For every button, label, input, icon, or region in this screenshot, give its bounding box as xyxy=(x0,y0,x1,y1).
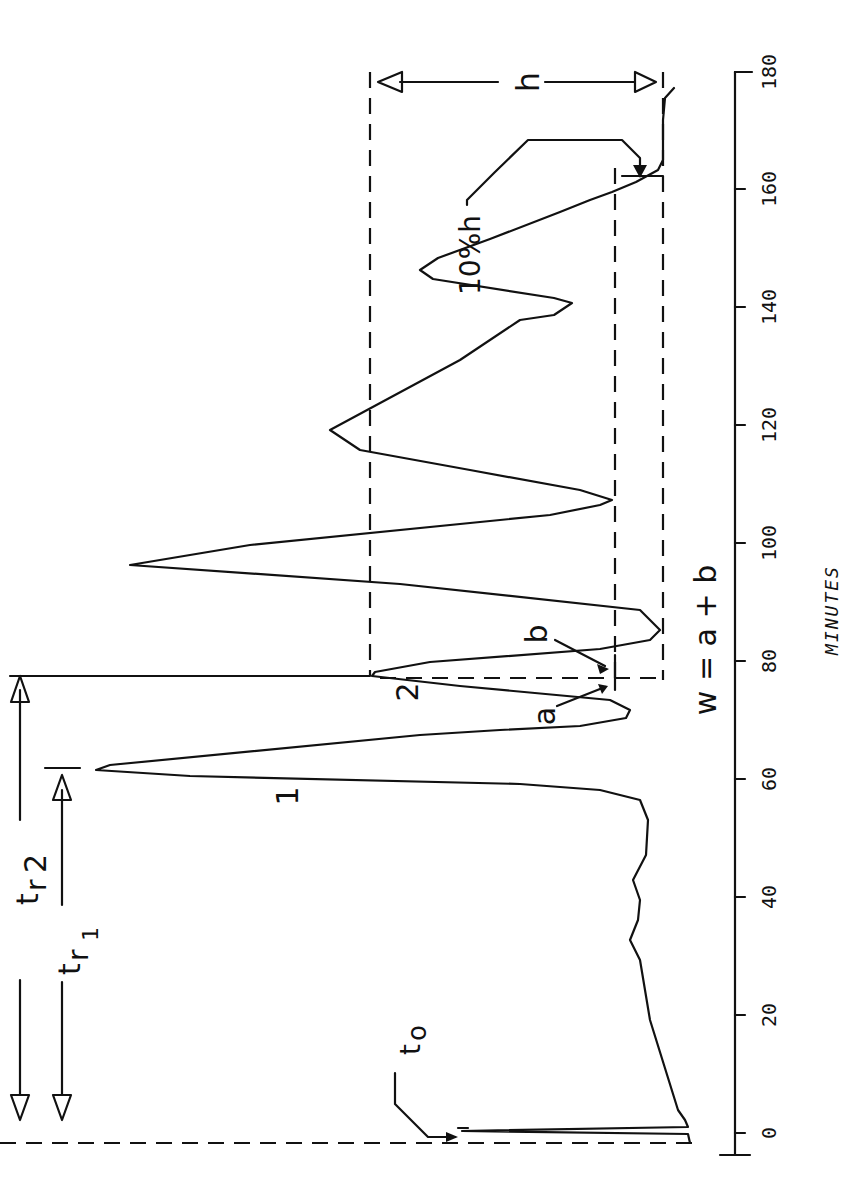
tick-label-40: 40 xyxy=(757,885,781,909)
svg-text:r: r xyxy=(62,949,95,961)
tr1-label: t r 1 xyxy=(52,927,103,975)
svg-text:2: 2 xyxy=(18,854,53,873)
peak-1-label: 1 xyxy=(270,786,305,805)
tick-label-0: 0 xyxy=(757,1127,781,1139)
tick-label-60: 60 xyxy=(757,767,781,791)
axis-ticks xyxy=(735,72,745,1133)
tick-label-80: 80 xyxy=(757,649,781,673)
arrow-head-right-icon xyxy=(446,1132,458,1142)
h-arrow: h xyxy=(378,72,656,92)
svg-text:1: 1 xyxy=(78,927,103,941)
tick-label-140: 140 xyxy=(757,289,781,325)
svg-text:o: o xyxy=(402,1025,432,1041)
svg-text:t: t xyxy=(10,893,45,905)
tick-label-180: 180 xyxy=(757,54,781,90)
tr1-arrow xyxy=(53,775,71,1120)
b-label: b xyxy=(519,624,554,643)
ten-percent-h-label: 10%h xyxy=(454,215,487,295)
b-leader-line xyxy=(555,640,605,666)
tick-label-20: 20 xyxy=(757,1003,781,1027)
arrow-head-down-icon xyxy=(53,1095,71,1120)
time-axis: 0 20 40 60 80 100 120 140 160 180 MINUTE… xyxy=(720,54,842,1155)
arrow-head-down-icon xyxy=(11,1095,29,1120)
svg-text:r: r xyxy=(20,879,53,891)
ten-percent-h-annotation: 10%h xyxy=(454,140,663,295)
chromatogram-trace xyxy=(96,88,690,1143)
svg-text:t: t xyxy=(394,1044,427,1055)
arrow-head-left-icon xyxy=(378,72,402,92)
tick-label-120: 120 xyxy=(757,407,781,443)
a-label: a xyxy=(527,707,562,725)
tr2-label: t r 2 xyxy=(10,854,53,905)
svg-text:t: t xyxy=(52,963,87,975)
tick-label-100: 100 xyxy=(757,525,781,561)
arrow-head-right-icon xyxy=(635,72,656,92)
tick-label-160: 160 xyxy=(757,171,781,207)
t0-annotation: t o xyxy=(394,1025,468,1142)
axis-title: MINUTES xyxy=(821,565,842,656)
axis-tick-labels: 0 20 40 60 80 100 120 140 160 180 xyxy=(757,54,781,1139)
chromatogram-figure: 0 20 40 60 80 100 120 140 160 180 MINUTE… xyxy=(0,0,848,1178)
width-equation: w = a + b xyxy=(688,565,723,715)
h-label: h xyxy=(509,72,547,92)
peak-2-label: 2 xyxy=(390,682,425,701)
